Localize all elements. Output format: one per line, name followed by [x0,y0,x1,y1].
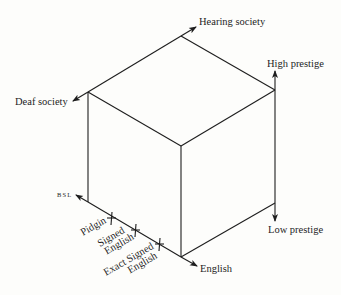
label-hearing-society: Hearing society [199,16,266,27]
label-bsl: BSL [57,191,73,198]
label-deaf-society: Deaf society [15,96,69,107]
deaf-society-arrow-icon [73,92,88,101]
label-english: English [200,263,233,274]
labels: Hearing society Deaf society High presti… [15,16,324,286]
english-arrow-icon [181,257,197,266]
cube-edges [88,36,275,257]
cube-diagram: Hearing society Deaf society High presti… [0,0,341,295]
hearing-society-arrow-icon [181,27,196,36]
exact-signed-english-marker-icon [155,238,164,251]
bsl-arrow-icon [76,195,88,202]
axis-arrows [73,27,275,266]
label-low-prestige: Low prestige [268,224,323,235]
label-high-prestige: High prestige [267,58,324,69]
